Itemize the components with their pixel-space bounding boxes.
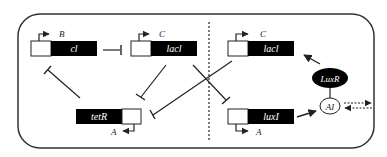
promoter-a-luxi-arrow [236,124,248,131]
promoter-a-tetr-box [122,109,141,124]
promoter-a-luxi-box [228,109,248,124]
gene-luxi: luxI A [228,109,294,137]
ai-molecule: AI [320,98,340,114]
promoter-c-left-label: C [159,29,166,39]
gene-luxi-label: luxI [263,111,279,122]
promoter-c-right-arrow [236,34,248,41]
gene-laci-right: lacl C [228,29,294,56]
gene-laci-left: lacl C [131,29,197,56]
repression-tetr-to-ci [44,66,80,98]
gene-tetr: tetR A [76,109,141,137]
gene-laci-right-label: lacl [264,43,279,54]
activation-luxr-to-laci [304,55,320,64]
gene-ci: cl B [31,29,97,56]
promoter-a-tetr-arrow [123,124,134,131]
production-luxi-to-ai [297,111,316,117]
genetic-circuit-diagram: cl B lacl C tetR A lacl C luxI A [0,0,387,157]
promoter-b-label: B [59,29,65,39]
luxr-molecule: LuxR [312,68,348,88]
promoter-c-right-label: C [260,29,267,39]
luxr-label: LuxR [320,74,341,84]
gene-tetr-label: tetR [91,111,107,122]
promoter-c-left-arrow [139,34,149,41]
promoter-c-right-box [228,41,248,56]
repression-ci-to-laci [103,45,121,55]
ai-diffusion-arrows [344,103,372,108]
gene-ci-label: cl [70,43,77,54]
promoter-a-luxi-label: A [255,127,262,137]
gene-laci-left-label: lacl [167,43,182,54]
promoter-b-box [31,41,51,56]
promoter-b-arrow [39,34,49,41]
promoter-a-tetr-label: A [110,127,117,137]
repression-laci-to-tetr [136,65,166,100]
promoter-c-left-box [131,41,151,56]
ai-label: AI [325,102,335,112]
